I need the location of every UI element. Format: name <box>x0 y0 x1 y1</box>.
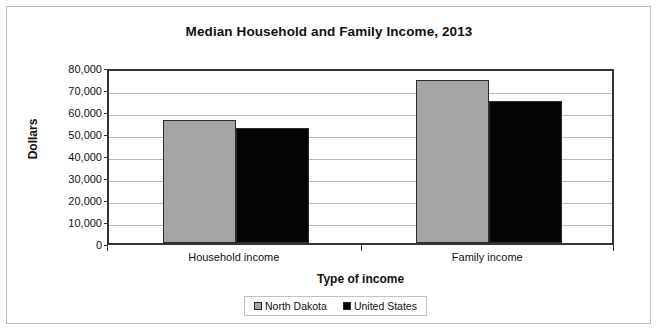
legend-swatch-icon <box>343 302 351 310</box>
gridline <box>109 93 612 94</box>
y-axis-tick-label: 40,000 <box>42 152 102 163</box>
bar <box>489 101 562 243</box>
y-axis-tick-label: 0 <box>42 240 102 251</box>
x-axis-tick-mark <box>361 245 362 251</box>
chart-title: Median Household and Family Income, 2013 <box>0 24 658 39</box>
x-axis-category-label: Family income <box>452 251 523 263</box>
y-axis-tick-label: 20,000 <box>42 196 102 207</box>
y-axis-tick-labels: 010,00020,00030,00040,00050,00060,00070,… <box>42 69 102 245</box>
x-axis-tick-marks <box>107 245 614 255</box>
y-axis-tick-label: 30,000 <box>42 174 102 185</box>
chart-legend: North DakotaUnited States <box>244 296 427 316</box>
bar <box>236 128 309 243</box>
plot-area <box>107 69 614 245</box>
legend-swatch-icon <box>254 302 262 310</box>
legend-item: North Dakota <box>254 300 327 312</box>
chart-page: Median Household and Family Income, 2013… <box>0 0 658 331</box>
bar <box>416 80 489 243</box>
legend-item: United States <box>343 300 417 312</box>
x-axis-title: Type of income <box>107 272 614 286</box>
x-axis-tick-mark <box>613 245 614 251</box>
x-axis-tick-mark <box>107 245 108 251</box>
y-axis-tick-label: 80,000 <box>42 64 102 75</box>
y-axis-title: Dollars <box>26 94 40 184</box>
y-axis-tick-label: 50,000 <box>42 130 102 141</box>
x-axis-category-label: Household income <box>188 251 279 263</box>
bar <box>163 120 236 243</box>
y-axis-tick-label: 10,000 <box>42 218 102 229</box>
y-axis-tick-label: 60,000 <box>42 108 102 119</box>
y-axis-tick-label: 70,000 <box>42 86 102 97</box>
legend-label: North Dakota <box>265 300 327 312</box>
legend-label: United States <box>354 300 417 312</box>
